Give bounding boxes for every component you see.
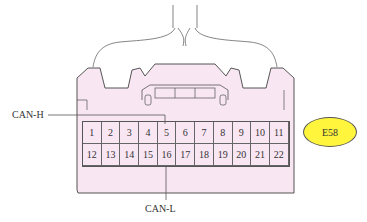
can-l-label: CAN-L — [145, 203, 176, 214]
pin-15: 15 — [139, 144, 158, 166]
pin-20: 20 — [233, 144, 252, 166]
pin-19: 19 — [214, 144, 233, 166]
pin-4: 4 — [139, 122, 158, 144]
can-h-label: CAN-H — [12, 109, 44, 120]
pin-18: 18 — [195, 144, 214, 166]
pin-1: 1 — [83, 122, 102, 144]
pin-8: 8 — [214, 122, 233, 144]
pin-3: 3 — [120, 122, 139, 144]
connector-id-badge: E58 — [303, 117, 357, 147]
pin-2: 2 — [102, 122, 121, 144]
pin-grid: 1 2 3 4 5 6 7 8 9 10 11 12 13 14 15 16 1… — [82, 121, 290, 167]
pin-16: 16 — [158, 144, 177, 166]
pin-12: 12 — [83, 144, 102, 166]
pin-17: 17 — [176, 144, 195, 166]
pin-10: 10 — [251, 122, 270, 144]
pin-11: 11 — [270, 122, 289, 144]
pin-7: 7 — [195, 122, 214, 144]
pin-5: 5 — [158, 122, 177, 144]
pin-9: 9 — [233, 122, 252, 144]
pin-14: 14 — [120, 144, 139, 166]
pin-13: 13 — [102, 144, 121, 166]
pin-22: 22 — [270, 144, 289, 166]
pin-6: 6 — [176, 122, 195, 144]
connector-drawing — [0, 0, 367, 222]
pin-21: 21 — [251, 144, 270, 166]
